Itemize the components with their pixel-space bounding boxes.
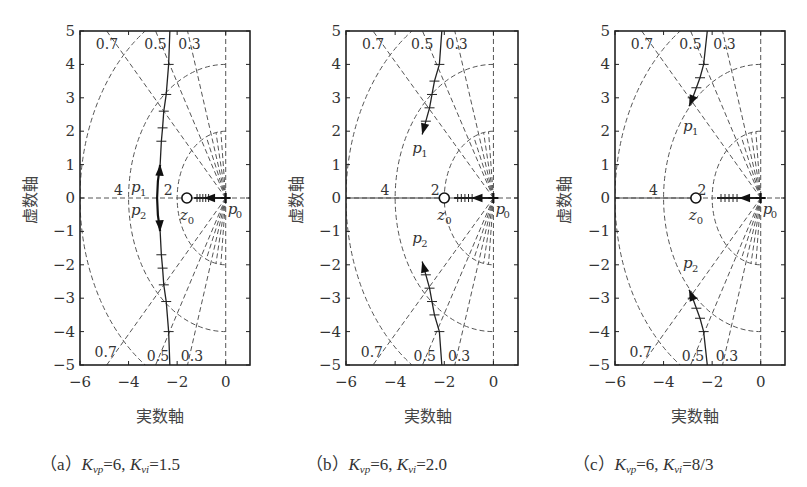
caption-a: （a）Kvp=6, Kvi=1.5 <box>40 450 180 475</box>
y-tick-label: −3 <box>319 289 341 307</box>
damping-line-0.5 <box>129 0 226 198</box>
damping-line-0.5 <box>664 0 761 198</box>
pole-label-p0-sub: 0 <box>503 209 509 220</box>
y-tick-label: −5 <box>53 356 75 374</box>
y-tick-label: 2 <box>600 122 610 140</box>
y-tick-label: 0 <box>65 189 75 207</box>
x-tick-label: −2 <box>166 373 188 391</box>
damping-label-top: 0.3 <box>178 36 200 52</box>
root-locus-breakaway <box>157 165 160 232</box>
damping-ray-fine <box>216 133 226 198</box>
plot-panel-a: −6−4−20−5−4−3−2−10123450.70.50.30.70.50.… <box>53 0 250 453</box>
x-tick-label: 0 <box>756 373 766 391</box>
y-tick-label: 2 <box>331 122 341 140</box>
pole-label-p2-sub: 2 <box>421 238 427 249</box>
damping-label-bottom: 0.3 <box>716 348 738 364</box>
arrow-icon <box>421 123 429 135</box>
damping-label-bottom: 0.7 <box>361 344 383 360</box>
zero-label: z <box>179 206 188 224</box>
kvi-symbol: K <box>663 455 674 474</box>
y-tick-label: −4 <box>319 323 341 341</box>
damping-ray-fine <box>216 198 226 263</box>
kvp-symbol: K <box>615 455 626 474</box>
arrow-icon <box>689 290 697 302</box>
damping-line-0.3 <box>167 0 225 198</box>
y-tick-label: −4 <box>588 323 610 341</box>
damping-label-bottom: 0.3 <box>181 348 203 364</box>
y-tick-label: 0 <box>600 189 610 207</box>
damping-label-top: 0.7 <box>96 36 118 52</box>
damping-ray-fine <box>751 133 761 198</box>
y-tick-label: −3 <box>53 289 75 307</box>
kvp-value: =6, <box>636 455 658 474</box>
damping-ray-fine <box>484 133 494 198</box>
x-tick-label: −4 <box>653 373 675 391</box>
damping-label-top: 0.3 <box>446 36 468 52</box>
kvi-value: =8/3 <box>682 455 713 474</box>
damping-line-0.3 <box>434 0 493 198</box>
caption-b: （b）Kvp=6, Kvi=2.0 <box>306 450 447 475</box>
y-tick-label: 2 <box>65 122 75 140</box>
damping-label-bottom: 0.5 <box>414 348 436 364</box>
damping-ray-fine <box>741 137 760 198</box>
arrow-icon <box>471 194 482 202</box>
frequency-label-2: 2 <box>698 182 707 198</box>
damping-ray-fine <box>484 198 494 263</box>
frequency-circle-6 <box>80 0 226 398</box>
caption-prefix: （b） <box>306 455 349 474</box>
y-tick-label: 5 <box>65 22 75 40</box>
frequency-circle-6 <box>346 0 493 398</box>
kvp-sub: vp <box>626 463 636 475</box>
y-tick-label: −2 <box>588 256 610 274</box>
zero-label: z <box>436 206 445 224</box>
pole-label-p1-sub: 1 <box>692 126 698 137</box>
kvp-sub: vp <box>93 463 103 475</box>
y-axis-label-b: 虚数軸 <box>283 176 307 224</box>
damping-ray-fine <box>741 198 760 259</box>
kvp-value: =6, <box>103 455 125 474</box>
kvi-symbol: K <box>397 455 408 474</box>
arrow-icon <box>689 94 697 106</box>
caption-c: （c）Kvp=6, Kvi=8/3 <box>573 450 713 475</box>
kvp-symbol: K <box>349 455 360 474</box>
y-tick-label: 5 <box>331 22 341 40</box>
damping-label-bottom: 0.3 <box>448 348 470 364</box>
x-tick-label: −2 <box>433 373 455 391</box>
damping-ray-fine <box>206 198 225 259</box>
pole-label-p2-sub: 2 <box>692 263 698 274</box>
damping-line-0.3 <box>702 0 760 198</box>
frequency-label-4: 4 <box>114 182 123 198</box>
y-tick-label: −4 <box>53 323 75 341</box>
x-tick-label: −6 <box>335 373 357 391</box>
x-tick-label: −4 <box>384 373 406 391</box>
zero-label: z <box>688 206 697 224</box>
y-tick-label: −1 <box>319 222 341 240</box>
y-axis-label-c: 虚数軸 <box>551 176 575 224</box>
damping-label-top: 0.5 <box>144 36 166 52</box>
y-tick-label: 1 <box>65 156 75 174</box>
damping-label-top: 0.5 <box>679 36 701 52</box>
plot-panel-b: −6−4−20−5−4−3−2−10123450.70.50.30.70.50.… <box>319 0 518 453</box>
damping-line-0.5 <box>395 0 493 198</box>
arrow-icon <box>421 261 429 273</box>
damping-label-top: 0.7 <box>631 36 653 52</box>
x-tick-label: −6 <box>604 373 626 391</box>
damping-label-top: 0.5 <box>411 36 433 52</box>
pole-label-p0-sub: 0 <box>771 209 777 220</box>
y-tick-label: −5 <box>319 356 341 374</box>
kvi-sub: vi <box>674 463 682 475</box>
frequency-circle-6 <box>615 0 761 398</box>
kvi-value: =1.5 <box>149 455 180 474</box>
y-tick-label: 3 <box>331 89 341 107</box>
y-tick-label: −3 <box>588 289 610 307</box>
damping-ray-fine <box>474 198 494 259</box>
caption-prefix: （a） <box>40 455 82 474</box>
y-tick-label: 3 <box>600 89 610 107</box>
zero-z0-marker <box>182 193 192 203</box>
y-tick-label: 4 <box>331 55 341 73</box>
y-tick-label: 4 <box>600 55 610 73</box>
zero-label-sub: 0 <box>697 215 703 226</box>
caption-prefix: （c） <box>573 455 615 474</box>
damping-label-top: 0.7 <box>362 36 384 52</box>
damping-label-top: 0.3 <box>713 36 735 52</box>
